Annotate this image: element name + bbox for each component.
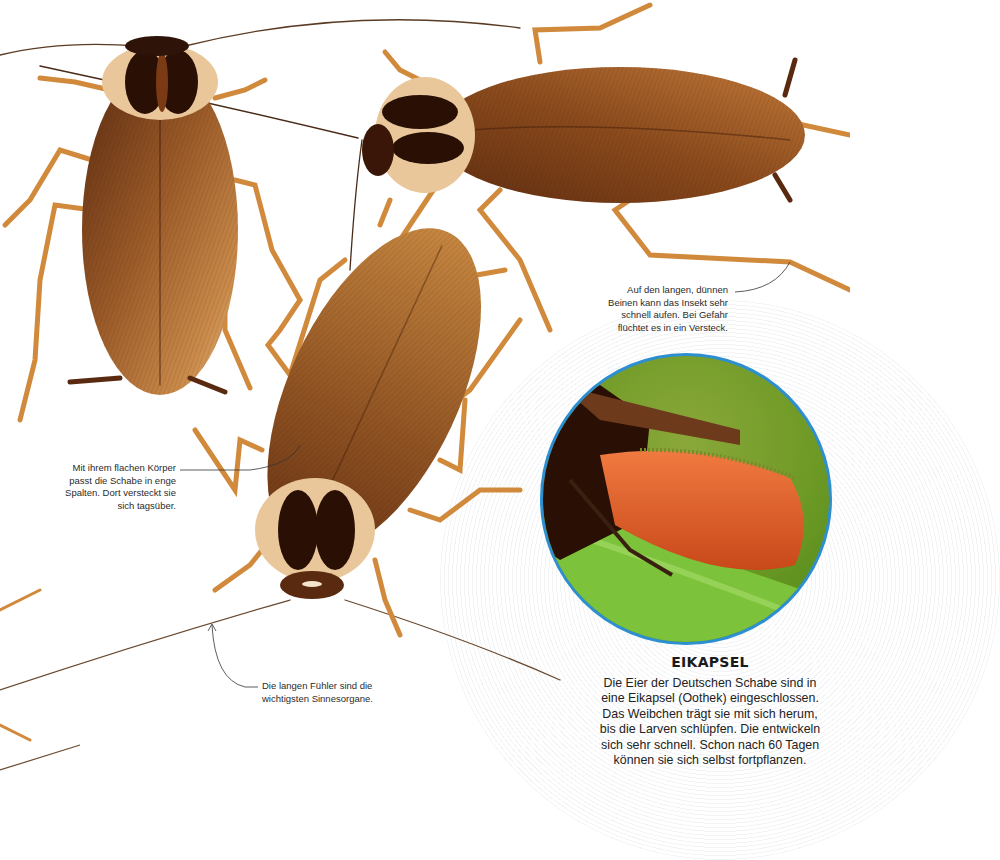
caption-body-line: Spalten. Dort versteckt sie bbox=[40, 487, 176, 500]
caption-legs-line: schnell aufen. Bei Gefahr bbox=[590, 309, 728, 322]
cockroach-center bbox=[0, 196, 560, 690]
inset-body-line: Die Eier der Deutschen Schabe sind in bbox=[560, 676, 860, 691]
caption-antennae-line: wichtigsten Sinnesorgane. bbox=[262, 693, 402, 706]
callout-line-antennae bbox=[212, 625, 258, 687]
leg-fragments bbox=[0, 590, 40, 740]
caption-body-line: sich tagsüber. bbox=[40, 500, 176, 513]
caption-legs-line: flüchtet es in ein Versteck. bbox=[590, 322, 728, 335]
egg-capsule-inset-photo bbox=[530, 353, 850, 660]
caption-legs-line: Beinen kann das Insekt sehr bbox=[590, 297, 728, 310]
inset-body-line: Das Weibchen trägt sie mit sich herum, bbox=[560, 707, 860, 722]
inset-body: Die Eier der Deutschen Schabe sind in ei… bbox=[560, 676, 860, 768]
caption-legs: Auf den langen, dünnen Beinen kann das I… bbox=[590, 284, 728, 334]
caption-body: Mit ihrem flachen Körper passt die Schab… bbox=[40, 462, 176, 512]
callout-line-legs bbox=[735, 262, 790, 292]
caption-body-line: Mit ihrem flachen Körper bbox=[40, 462, 176, 475]
caption-antennae-line: Die langen Fühler sind die bbox=[262, 680, 402, 693]
inset-body-line: sich sehr schnell. Schon nach 60 Tagen bbox=[560, 738, 860, 753]
caption-body-line: passt die Schabe in enge bbox=[40, 475, 176, 488]
caption-legs-line: Auf den langen, dünnen bbox=[590, 284, 728, 297]
inset-title: EIKAPSEL bbox=[570, 654, 850, 670]
inset-body-line: können sie sich selbst fortpflanzen. bbox=[560, 753, 860, 768]
inset-body-line: eine Eikapsel (Oothek) eingeschlossen. bbox=[560, 691, 860, 706]
caption-antennae: Die langen Fühler sind die wichtigsten S… bbox=[262, 680, 402, 705]
inset-body-line: bis die Larven schlüpfen. Die entwickeln bbox=[560, 722, 860, 737]
